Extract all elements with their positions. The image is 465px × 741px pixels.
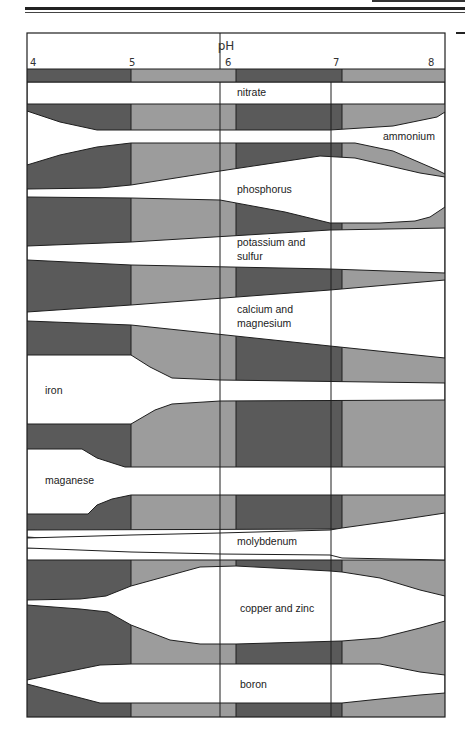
tick-label-8: 8 <box>428 57 434 68</box>
label-calcium-line1: calcium and <box>237 303 293 315</box>
label-molybdenum: molybdenum <box>237 535 297 547</box>
label-boron: boron <box>240 678 267 690</box>
label-iron: iron <box>45 384 63 396</box>
label-copper-zinc: copper and zinc <box>240 602 314 614</box>
tick-label-6: 6 <box>225 57 231 68</box>
label-potassium-line2: sulfur <box>237 250 263 262</box>
band-nitrate <box>27 82 445 104</box>
label-calcium-line2: magnesium <box>237 317 292 329</box>
label-manganese: maganese <box>45 474 94 486</box>
ph-scale-bar <box>27 69 445 82</box>
tick-label-5: 5 <box>129 57 135 68</box>
label-ammonium: ammonium <box>383 130 435 142</box>
band-boron <box>27 664 445 703</box>
label-nitrate: nitrate <box>237 86 266 98</box>
axis-title: pH <box>218 39 235 53</box>
tick-label-7: 7 <box>333 57 339 68</box>
label-potassium-line1: potassium and <box>237 236 305 248</box>
tick-label-4: 4 <box>30 57 36 68</box>
label-phosphorus: phosphorus <box>237 183 292 195</box>
nutrient-availability-chart: pH 4 5 6 7 8 nitrate ammonium phosphorus… <box>0 0 465 741</box>
